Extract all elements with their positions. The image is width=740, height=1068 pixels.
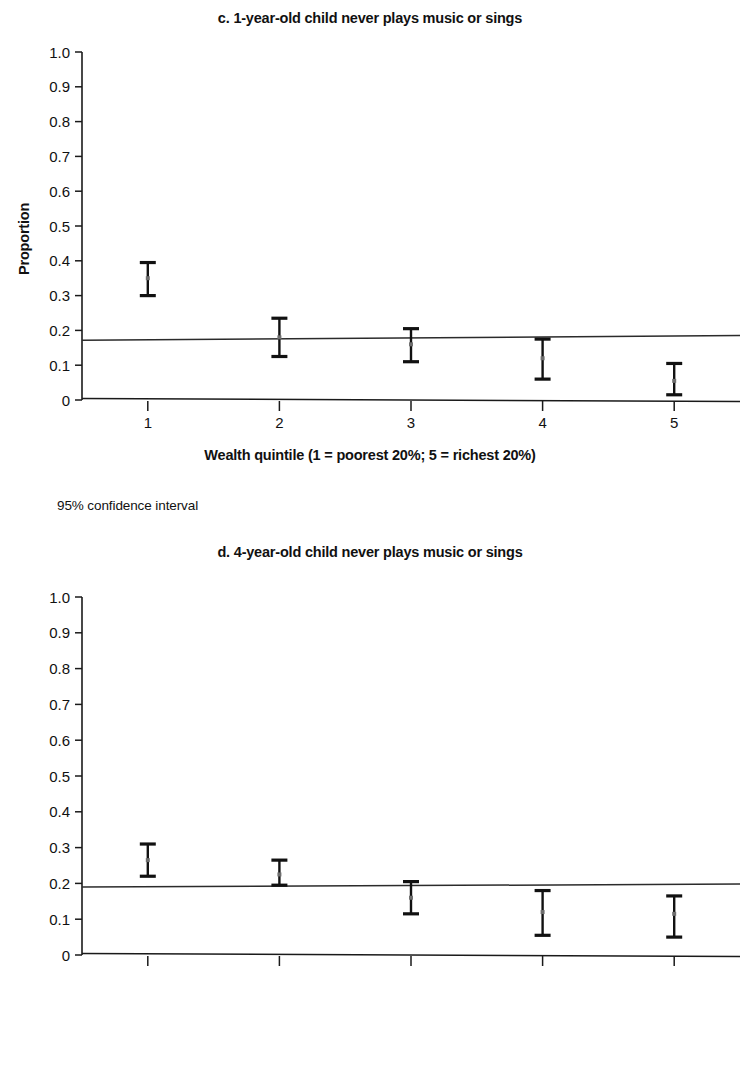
data-point-marker: [409, 342, 413, 346]
y-tick-label: 0.3: [49, 287, 70, 304]
x-tick-label: 1: [144, 969, 152, 970]
y-tick-label: 0.1: [49, 357, 70, 374]
y-tick-label: 0.5: [49, 768, 70, 785]
data-point-marker: [277, 872, 281, 876]
panel-c-plot-area: 00.10.20.30.40.50.60.70.80.91.012345: [0, 0, 740, 440]
data-point-marker: [277, 335, 281, 339]
y-tick-label: 0.2: [49, 875, 70, 892]
x-tick-label: 2: [275, 969, 283, 970]
y-tick-label: 0: [62, 392, 70, 409]
y-tick-label: 0.5: [49, 218, 70, 235]
y-tick-label: 0.7: [49, 696, 70, 713]
y-tick-label: 0.3: [49, 839, 70, 856]
x-tick-label: 5: [670, 414, 678, 431]
data-point-marker: [541, 910, 545, 914]
chart-panel-d: d. 4-year-old child never plays music or…: [0, 530, 740, 1068]
x-tick-label: 4: [538, 969, 546, 970]
y-tick-label: 0: [62, 947, 70, 964]
y-tick-label: 0.4: [49, 803, 70, 820]
x-tick-label: 3: [407, 969, 415, 970]
panel-c-x-axis-title: Wealth quintile (1 = poorest 20%; 5 = ri…: [0, 447, 740, 463]
y-tick-label: 0.8: [49, 113, 70, 130]
data-point-marker: [672, 379, 676, 383]
y-tick-label: 0.4: [49, 252, 70, 269]
data-point-marker: [146, 276, 150, 280]
y-tick-label: 0.1: [49, 911, 70, 928]
y-tick-label: 0.9: [49, 78, 70, 95]
y-tick-label: 0.6: [49, 732, 70, 749]
panel-c-footnote: 95% confidence interval: [57, 498, 198, 513]
panel-d-plot-area: 00.10.20.30.40.50.60.70.80.91.012345: [0, 530, 740, 970]
data-point-marker: [672, 912, 676, 916]
y-tick-label: 0.6: [49, 183, 70, 200]
y-tick-label: 0.2: [49, 322, 70, 339]
x-tick-label: 1: [144, 414, 152, 431]
y-tick-label: 1.0: [49, 44, 70, 61]
y-tick-label: 0.7: [49, 148, 70, 165]
y-tick-label: 0.8: [49, 660, 70, 677]
data-point-marker: [146, 858, 150, 862]
x-tick-label: 3: [407, 414, 415, 431]
x-tick-label: 2: [275, 414, 283, 431]
x-tick-label: 4: [538, 414, 546, 431]
data-point-marker: [541, 356, 545, 360]
y-tick-label: 1.0: [49, 589, 70, 606]
x-tick-label: 5: [670, 969, 678, 970]
y-tick-label: 0.9: [49, 624, 70, 641]
data-point-marker: [409, 896, 413, 900]
chart-panel-c: c. 1-year-old child never plays music or…: [0, 0, 740, 530]
